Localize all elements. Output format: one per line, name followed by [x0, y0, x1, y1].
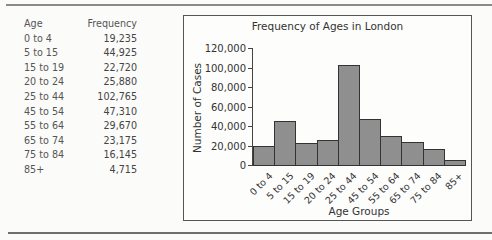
table-row: 0 to 419,235: [24, 32, 137, 47]
age-cell: 20 to 24: [24, 75, 64, 90]
frequency-cell: 19,235: [103, 32, 137, 47]
y-tick: [248, 126, 252, 127]
frequency-cell: 22,720: [103, 61, 137, 76]
y-tick: [248, 48, 252, 49]
top-rule: [6, 4, 492, 6]
bottom-rule: [8, 232, 492, 234]
y-tick-label: 40,000: [211, 121, 246, 132]
y-tick-label: 80,000: [211, 82, 246, 93]
age-cell: 25 to 44: [24, 90, 64, 105]
table-row: 85+4,715: [24, 163, 137, 178]
table-row: 5 to 1544,925: [24, 46, 137, 61]
age-cell: 55 to 64: [24, 119, 64, 134]
frequency-cell: 16,145: [103, 148, 137, 163]
frequency-cell: 44,925: [103, 46, 137, 61]
age-cell: 65 to 74: [24, 134, 64, 149]
frequency-table: Age Frequency 0 to 419,2355 to 1544,9251…: [24, 17, 137, 178]
chart-title: Frequency of Ages in London: [183, 20, 472, 32]
age-cell: 15 to 19: [24, 61, 64, 76]
table-row: 75 to 8416,145: [24, 148, 137, 163]
header-age: Age: [24, 17, 43, 32]
age-cell: 5 to 15: [24, 46, 58, 61]
y-tick-label: 0: [240, 160, 246, 171]
table-row: 65 to 7423,175: [24, 134, 137, 149]
y-tick-label: 100,000: [205, 62, 246, 73]
bar: [274, 121, 296, 166]
frequency-cell: 25,880: [103, 75, 137, 90]
y-tick-label: 20,000: [211, 140, 246, 151]
y-tick-label: 120,000: [205, 43, 246, 54]
y-tick: [248, 165, 252, 166]
table-header: Age Frequency: [24, 17, 137, 32]
bar: [444, 160, 466, 166]
frequency-cell: 47,310: [103, 105, 137, 120]
frequency-cell: 102,765: [97, 90, 137, 105]
bar: [423, 149, 445, 166]
table-row: 55 to 6429,670: [24, 119, 137, 134]
age-cell: 0 to 4: [24, 32, 52, 47]
header-frequency: Frequency: [87, 17, 137, 32]
frequency-cell: 23,175: [103, 134, 137, 149]
bar: [338, 65, 360, 166]
bar: [295, 143, 317, 166]
y-tick: [248, 146, 252, 147]
frequency-cell: 29,670: [103, 119, 137, 134]
x-axis-label: Age Groups: [253, 205, 465, 217]
age-cell: 45 to 54: [24, 105, 64, 120]
y-tick: [248, 87, 252, 88]
table-row: 15 to 1922,720: [24, 61, 137, 76]
y-axis-label: Number of Cases: [191, 63, 203, 153]
bar: [253, 146, 275, 166]
y-tick: [248, 68, 252, 69]
age-cell: 75 to 84: [24, 148, 64, 163]
table-row: 45 to 5447,310: [24, 105, 137, 120]
y-tick: [248, 107, 252, 108]
y-tick-label: 60,000: [211, 101, 246, 112]
bar: [401, 142, 423, 166]
frequency-cell: 4,715: [110, 163, 137, 178]
bar: [317, 140, 339, 166]
table-row: 20 to 2425,880: [24, 75, 137, 90]
age-cell: 85+: [24, 163, 44, 178]
bar: [380, 136, 402, 166]
bar: [359, 119, 381, 166]
table-row: 25 to 44102,765: [24, 90, 137, 105]
